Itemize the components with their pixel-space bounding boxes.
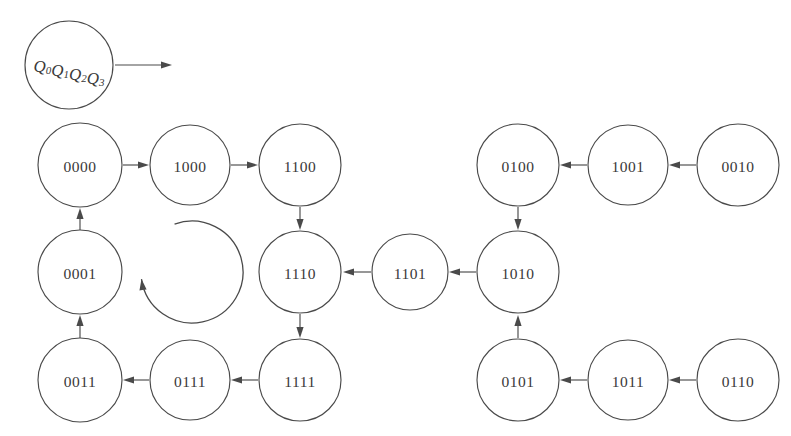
arrow-head-up bbox=[514, 315, 521, 326]
arrow-head-left bbox=[449, 268, 460, 275]
cycle-arc-path bbox=[141, 221, 243, 323]
state-node-1111[interactable]: 1111 bbox=[259, 339, 341, 421]
arrow-head-left bbox=[669, 161, 680, 168]
state-node-1001[interactable]: 1001 bbox=[588, 125, 668, 205]
arrow-head-up bbox=[76, 208, 83, 219]
edge-0111-to-0011 bbox=[123, 376, 149, 383]
state-node-1011[interactable]: 1011 bbox=[588, 340, 668, 420]
arrow-head-down bbox=[514, 219, 521, 230]
state-node-label: 1110 bbox=[284, 265, 316, 282]
edge-0010-to-1001 bbox=[669, 161, 696, 168]
state-node-0010[interactable]: 0010 bbox=[697, 124, 779, 206]
edge-0000-to-1000 bbox=[123, 161, 149, 168]
state-node-label: 1101 bbox=[394, 265, 426, 282]
edge-0101-to-1010 bbox=[514, 315, 521, 338]
state-node-label: 0111 bbox=[174, 373, 206, 390]
arrow-head-right bbox=[138, 161, 149, 168]
edge-0100-to-1010 bbox=[514, 207, 521, 230]
state-node-1101[interactable]: 1101 bbox=[372, 234, 448, 310]
edge-1100-to-1110 bbox=[296, 207, 303, 230]
edge-0011-to-0001 bbox=[76, 315, 83, 338]
state-node-label: 1010 bbox=[502, 265, 535, 282]
state-node-label: 0110 bbox=[722, 373, 754, 390]
state-diagram-canvas: 0000100011000100100100100001111011011010… bbox=[0, 0, 791, 436]
cycle-indicator bbox=[139, 221, 243, 323]
state-node-0000[interactable]: 0000 bbox=[38, 123, 122, 207]
edge-0001-to-0000 bbox=[76, 208, 83, 230]
state-node-label: 0011 bbox=[64, 373, 96, 390]
arrow-head-left bbox=[560, 161, 571, 168]
state-node-label: 1011 bbox=[612, 373, 644, 390]
state-node-label: 1001 bbox=[612, 158, 645, 175]
arrow-head-right bbox=[247, 161, 258, 168]
edge-1110-to-1111 bbox=[296, 314, 303, 338]
arrow-head-down bbox=[296, 327, 303, 338]
state-node-1000[interactable]: 1000 bbox=[150, 125, 230, 205]
state-node-0100[interactable]: 0100 bbox=[477, 124, 559, 206]
state-node-label: 0100 bbox=[502, 158, 535, 175]
edge-1011-to-0101 bbox=[560, 376, 587, 383]
state-node-1010[interactable]: 1010 bbox=[477, 231, 559, 313]
state-node-label: 0010 bbox=[722, 158, 755, 175]
edge-1000-to-1100 bbox=[231, 161, 258, 168]
arrow-head-up bbox=[76, 315, 83, 326]
state-node-label: 1000 bbox=[174, 158, 207, 175]
edge-1010-to-1101 bbox=[449, 268, 476, 275]
diagram-svg: 0000100011000100100100100001111011011010… bbox=[0, 0, 791, 436]
state-node-label: 0001 bbox=[64, 265, 97, 282]
edge-1001-to-0100 bbox=[560, 161, 587, 168]
state-node-0110[interactable]: 0110 bbox=[697, 339, 779, 421]
state-node-1100[interactable]: 1100 bbox=[259, 124, 341, 206]
state-node-label: 0101 bbox=[502, 373, 535, 390]
state-node-label: 0000 bbox=[64, 158, 97, 175]
arrow-head-left bbox=[560, 376, 571, 383]
state-node-0001[interactable]: 0001 bbox=[38, 230, 122, 314]
arrow-head-left bbox=[669, 376, 680, 383]
legend-node: Q0Q1Q2Q3 bbox=[25, 21, 172, 109]
arrow-head-left bbox=[231, 376, 242, 383]
edge-1101-to-1110 bbox=[343, 268, 371, 275]
edge-1111-to-0111 bbox=[231, 376, 258, 383]
state-node-0011[interactable]: 0011 bbox=[38, 338, 122, 422]
arrow-head-left bbox=[343, 268, 354, 275]
state-node-label: 1111 bbox=[284, 373, 315, 390]
state-node-0101[interactable]: 0101 bbox=[477, 339, 559, 421]
legend-arrow-head bbox=[161, 61, 172, 68]
arrow-head-left bbox=[123, 376, 134, 383]
cycle-arrow-head bbox=[139, 279, 146, 290]
arrow-head-down bbox=[296, 219, 303, 230]
state-node-label: 1100 bbox=[284, 158, 316, 175]
state-node-0111[interactable]: 0111 bbox=[150, 340, 230, 420]
edge-0110-to-1011 bbox=[669, 376, 696, 383]
state-node-1110[interactable]: 1110 bbox=[259, 231, 341, 313]
